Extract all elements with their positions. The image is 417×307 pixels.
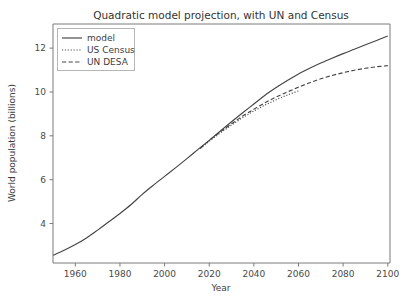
y-tick-label: 12 (35, 43, 46, 53)
y-tick-label: 6 (40, 175, 46, 185)
chart-title: Quadratic model projection, with UN and … (93, 9, 349, 21)
legend-label-model: model (87, 33, 115, 43)
x-tick-label: 2060 (287, 269, 310, 279)
x-tick-label: 1960 (64, 269, 87, 279)
x-tick-label: 2080 (332, 269, 355, 279)
x-tick-label: 2020 (198, 269, 221, 279)
y-tick-label: 8 (40, 131, 46, 141)
y-axis-label: World population (billions) (7, 84, 17, 202)
y-tick-label: 4 (40, 219, 46, 229)
quadratic-projection-chart: Quadratic model projection, with UN and … (0, 0, 417, 307)
x-axis-label: Year (210, 283, 230, 293)
y-tick-label: 10 (35, 87, 47, 97)
chart-legend: model US Census UN DESA (58, 29, 136, 71)
x-tick-label: 2000 (153, 269, 176, 279)
legend-label-un-desa: UN DESA (87, 57, 129, 67)
x-tick-label: 2100 (376, 269, 399, 279)
figure-canvas: Quadratic model projection, with UN and … (0, 0, 417, 307)
x-tick-label: 2040 (242, 269, 265, 279)
legend-label-us-census: US Census (87, 45, 135, 55)
x-tick-label: 1980 (109, 269, 132, 279)
